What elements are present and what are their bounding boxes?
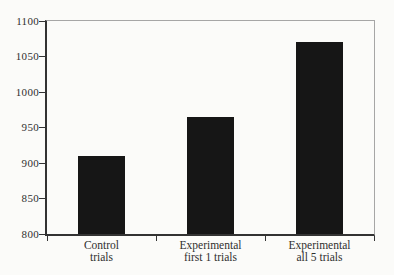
x-category-label-line1: Control	[42, 239, 162, 251]
y-tick-mark	[39, 234, 45, 235]
bar-experimental-first-1-trials	[187, 117, 234, 234]
x-category-label-line2: all 5 trials	[260, 251, 380, 263]
x-category-label-line1: Experimental	[260, 239, 380, 251]
y-tick-label: 900	[0, 157, 39, 170]
y-tick-label: 1100	[0, 15, 39, 28]
y-tick-label: 800	[0, 228, 39, 241]
x-category-label-line1: Experimental	[151, 239, 271, 251]
bar-chart-figure: 800850900950100010501100 ControltrialsEx…	[0, 0, 394, 275]
y-tick-mark	[39, 92, 45, 93]
plot-area	[45, 20, 375, 236]
bar-experimental-all-5-trials	[296, 42, 343, 234]
x-category-label-experimental-first-1-trials: Experimentalfirst 1 trials	[151, 239, 271, 263]
x-category-label-line2: first 1 trials	[151, 251, 271, 263]
y-tick-mark	[39, 163, 45, 164]
y-tick-label: 950	[0, 121, 39, 134]
x-category-label-line2: trials	[42, 251, 162, 263]
y-tick-mark	[39, 21, 45, 22]
y-tick-mark	[39, 127, 45, 128]
x-category-label-experimental-all-5-trials: Experimentalall 5 trials	[260, 239, 380, 263]
y-tick-mark	[39, 198, 45, 199]
y-tick-label: 1050	[0, 50, 39, 63]
y-tick-label: 850	[0, 192, 39, 205]
y-tick-mark	[39, 56, 45, 57]
y-tick-label: 1000	[0, 86, 39, 99]
x-category-label-control-trials: Controltrials	[42, 239, 162, 263]
bar-control-trials	[78, 156, 125, 234]
